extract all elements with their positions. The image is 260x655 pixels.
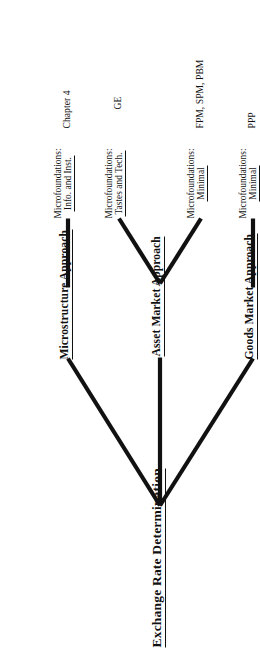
connector-root-to-microstructure — [68, 358, 160, 505]
micro-value-label: Minimal — [196, 165, 207, 201]
micro-value-label: Tastes and Tech. — [114, 150, 125, 216]
micro-lead-label: Microfoundations: — [186, 148, 196, 218]
connector-asset-to-minimal — [160, 218, 201, 283]
node-microstructure-approach: Microstructure Approach — [58, 230, 73, 360]
node-goods-market-approach: Goods Market Approach — [243, 233, 258, 359]
node-asset-market-approach: Asset Market Approach — [150, 236, 165, 356]
micro-microstructure: Microfoundations: Info. and Inst. — [53, 148, 75, 218]
models-asset-minimal: FPM, SPM, PBM — [195, 59, 206, 128]
models-goods-market: PPP — [247, 112, 258, 128]
micro-value-label: Info. and Inst. — [63, 155, 74, 212]
connector-root-to-goods — [160, 358, 253, 505]
micro-lead-label: Microfoundations: — [53, 148, 63, 218]
micro-lead-label: Microfoundations: — [104, 148, 114, 218]
micro-asset-minimal: Microfoundations: Minimal — [186, 148, 208, 218]
micro-goods-market: Microfoundations: Minimal — [238, 148, 258, 218]
micro-asset-tastes-tech: Microfoundations: Tastes and Tech. — [104, 148, 126, 218]
models-asset-tastes-tech: GE — [113, 96, 124, 109]
micro-value-label: Minimal — [248, 165, 258, 201]
diagram-title: Exchange Rate Determination — [149, 468, 166, 647]
diagram-canvas: Exchange Rate Determination Goods Market… — [31, 0, 258, 655]
micro-lead-label: Microfoundations: — [238, 148, 248, 218]
models-microstructure: Chapter 4 — [62, 90, 73, 128]
